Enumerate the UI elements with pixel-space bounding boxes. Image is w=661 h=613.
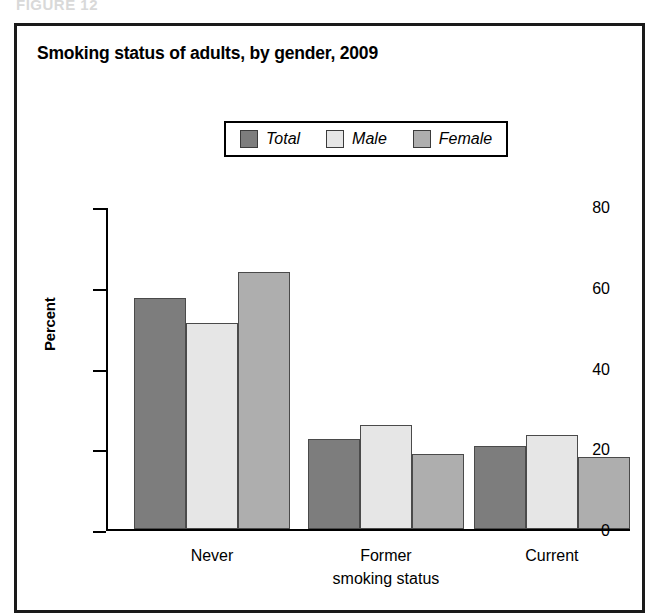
figure-panel: Smoking status of adults, by gender, 200… <box>14 23 645 613</box>
bar-male-never[interactable] <box>186 323 238 529</box>
y-axis-tick-label: 0 <box>601 522 610 540</box>
y-axis-line <box>106 208 108 531</box>
bar-total-never[interactable] <box>134 298 186 529</box>
legend-item-male[interactable]: Male <box>326 130 387 148</box>
y-axis-tick-label: 40 <box>592 361 610 379</box>
bar-male-current[interactable] <box>526 435 578 529</box>
bar-female-current[interactable] <box>578 457 630 529</box>
bar-total-former[interactable] <box>308 439 360 529</box>
legend-label-female: Female <box>439 130 492 148</box>
x-axis-label-former: Former <box>360 547 412 565</box>
y-axis-tick <box>93 531 106 533</box>
x-axis-title: smoking status <box>333 570 440 588</box>
legend-item-total[interactable]: Total <box>240 130 300 148</box>
legend-swatch-male-icon <box>326 130 344 148</box>
legend-swatch-female-icon <box>413 130 431 148</box>
y-axis-tick-label: 80 <box>592 199 610 217</box>
figure-caption: FIGURE 12 <box>16 0 98 13</box>
x-axis-label-current: Current <box>525 547 578 565</box>
y-axis-tick <box>93 208 106 210</box>
y-axis-tick <box>93 450 106 452</box>
y-axis-tick-label: 20 <box>592 441 610 459</box>
plot-area: 020406080 <box>106 208 630 531</box>
legend-label-total: Total <box>266 130 300 148</box>
legend-swatch-total-icon <box>240 130 258 148</box>
bar-male-former[interactable] <box>360 425 412 529</box>
bar-female-never[interactable] <box>238 272 290 529</box>
y-axis-tick <box>93 289 106 291</box>
y-axis-tick-label: 60 <box>592 280 610 298</box>
chart-legend: Total Male Female <box>224 121 508 157</box>
x-axis-line <box>106 529 630 531</box>
legend-label-male: Male <box>352 130 387 148</box>
y-axis-tick <box>93 370 106 372</box>
bar-female-former[interactable] <box>412 454 464 529</box>
legend-item-female[interactable]: Female <box>413 130 492 148</box>
x-axis-label-never: Never <box>191 547 234 565</box>
chart-title: Smoking status of adults, by gender, 200… <box>37 43 378 64</box>
y-axis-title: Percent <box>41 297 58 351</box>
bar-total-current[interactable] <box>474 446 526 529</box>
